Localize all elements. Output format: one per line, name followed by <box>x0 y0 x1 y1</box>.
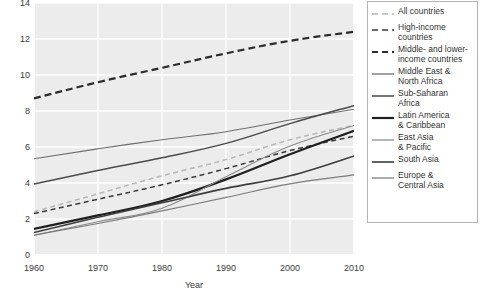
legend-item[interactable]: Latin America & Caribbean <box>372 111 474 130</box>
legend-item[interactable]: Middle East & North Africa <box>372 67 474 86</box>
series-line <box>34 32 354 99</box>
y-tick-label: 10 <box>4 71 30 80</box>
legend-item-label: East Asia & Pacific <box>398 133 433 152</box>
legend-item-label: High-income countries <box>398 23 446 42</box>
legend-item-label: Middle East & North Africa <box>398 67 450 86</box>
y-tick-label: 12 <box>4 35 30 44</box>
legend-line-swatch-icon <box>372 172 394 184</box>
legend-line-swatch-icon <box>372 156 394 168</box>
legend-item-label: All countries <box>398 7 444 17</box>
legend-item-label: Sub-Saharan Africa <box>398 89 448 108</box>
series-line <box>34 125 354 211</box>
series-line <box>34 175 354 235</box>
legend-line-swatch-icon <box>372 8 394 20</box>
legend-item-label: Middle- and lower- income countries <box>398 45 468 64</box>
x-tick-label: 1960 <box>11 264 57 273</box>
legend-item[interactable]: High-income countries <box>372 23 474 42</box>
legend-item[interactable]: Middle- and lower- income countries <box>372 45 474 64</box>
series-line <box>34 131 354 229</box>
gridlines <box>34 3 354 255</box>
legend-line-swatch-icon <box>372 68 394 80</box>
y-tick-label: 6 <box>4 143 30 152</box>
y-tick-label: 8 <box>4 107 30 116</box>
x-axis: 196019701980199020002010 <box>0 264 480 278</box>
legend-item-label: South Asia <box>398 155 439 165</box>
legend-item[interactable]: East Asia & Pacific <box>372 133 474 152</box>
x-tick-label: 2000 <box>267 264 313 273</box>
x-tick-label: 1970 <box>75 264 121 273</box>
legend-line-swatch-icon <box>372 24 394 36</box>
legend-line-swatch-icon <box>372 46 394 58</box>
y-axis: 14121086420 <box>0 0 30 297</box>
chart-figure: 14121086420 196019701980199020002010 Yea… <box>0 0 480 297</box>
x-tick-label: 1990 <box>203 264 249 273</box>
x-axis-title: Year <box>34 281 354 290</box>
chart-legend: All countriesHigh-income countriesMiddle… <box>367 1 478 223</box>
y-tick-label: 2 <box>4 215 30 224</box>
legend-item[interactable]: South Asia <box>372 155 474 168</box>
legend-line-swatch-icon <box>372 134 394 146</box>
legend-line-swatch-icon <box>372 112 394 124</box>
legend-line-swatch-icon <box>372 90 394 102</box>
legend-item[interactable]: Sub-Saharan Africa <box>372 89 474 108</box>
legend-item-label: Europe & Central Asia <box>398 171 444 190</box>
legend-item[interactable]: Europe & Central Asia <box>372 171 474 190</box>
legend-item[interactable]: All countries <box>372 7 474 20</box>
plot-area <box>34 3 354 255</box>
legend-item-label: Latin America & Caribbean <box>398 111 450 130</box>
x-tick-label: 2010 <box>331 264 377 273</box>
plot-lines <box>34 3 354 255</box>
y-tick-label: 0 <box>4 251 30 260</box>
y-tick-label: 14 <box>4 0 30 8</box>
x-tick-label: 1980 <box>139 264 185 273</box>
y-tick-label: 4 <box>4 179 30 188</box>
